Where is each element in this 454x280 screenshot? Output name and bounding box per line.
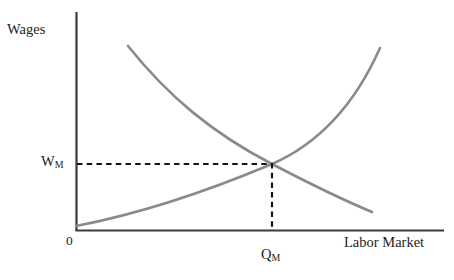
labor-demand-curve: [128, 46, 372, 212]
origin-label: 0: [66, 234, 73, 248]
equilibrium-quantity-subscript: M: [271, 252, 280, 263]
equilibrium-wage-label: WM: [41, 154, 63, 169]
equilibrium-wage-base: W: [41, 153, 55, 169]
equilibrium-quantity-base: Q: [261, 246, 271, 262]
equilibrium-quantity-label: QM: [261, 247, 280, 262]
equilibrium-wage-subscript: M: [55, 159, 64, 170]
labor-market-diagram: Wages WM 0 QM Labor Market: [0, 0, 454, 280]
y-axis-label: Wages: [7, 22, 45, 37]
x-axis-label: Labor Market: [344, 235, 424, 250]
